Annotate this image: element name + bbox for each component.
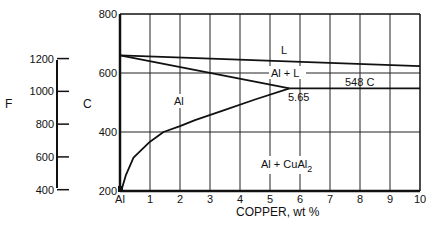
region-label-al-plus-l: Al + L <box>271 67 299 79</box>
fahrenheit-axis-label: F <box>5 97 12 111</box>
fahrenheit-tick-800: 800 <box>36 118 54 130</box>
x-tick-3: 3 <box>207 193 213 205</box>
fahrenheit-tick-1000: 1000 <box>30 85 54 97</box>
x-tick-2: 2 <box>177 193 183 205</box>
x-tick-1: 1 <box>147 193 153 205</box>
celsius-tick-400: 400 <box>99 126 117 138</box>
x-tick-6: 6 <box>297 193 303 205</box>
x-tick-Al: Al <box>115 193 125 205</box>
x-tick-labels: Al12345678910 <box>115 193 426 205</box>
fahrenheit-tick-1200: 1200 <box>30 53 54 65</box>
x-tick-5: 5 <box>267 193 273 205</box>
celsius-tick-600: 600 <box>99 67 117 79</box>
fahrenheit-tick-600: 600 <box>36 151 54 163</box>
region-label-liquid: L <box>281 44 287 56</box>
x-tick-8: 8 <box>357 193 363 205</box>
x-tick-7: 7 <box>327 193 333 205</box>
celsius-axis-label: C <box>83 97 92 111</box>
x-axis-label: COPPER, wt % <box>236 205 320 219</box>
fahrenheit-axis: 40060080010001200 <box>30 53 69 196</box>
phase-diagram-chart: 40060080010001200 F C 200400600800 Al123… <box>0 0 447 228</box>
celsius-tick-labels: 200400600800 <box>99 8 117 197</box>
fahrenheit-tick-400: 400 <box>36 184 54 196</box>
celsius-tick-800: 800 <box>99 8 117 20</box>
eutectic-composition-label: 5.65 <box>288 91 309 103</box>
x-tick-10: 10 <box>414 193 426 205</box>
eutectic-temperature-label: 548 C <box>345 76 374 88</box>
solvus-line <box>122 88 290 190</box>
region-label-al: Al <box>174 95 184 107</box>
x-tick-9: 9 <box>387 193 393 205</box>
x-tick-4: 4 <box>237 193 243 205</box>
